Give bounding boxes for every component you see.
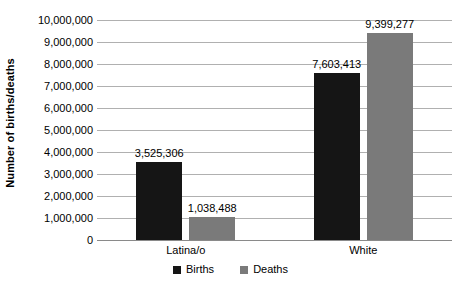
legend-label: Births (186, 264, 214, 275)
bar-data-label: 3,525,306 (119, 147, 199, 159)
y-axis-tick-labels: 10,000,0009,000,0008,000,0007,000,0006,0… (0, 20, 93, 240)
y-tick-label: 8,000,000 (7, 59, 93, 70)
y-tick-label: 1,000,000 (7, 213, 93, 224)
bar-deaths-white[interactable] (367, 33, 413, 240)
bar-births-white[interactable] (314, 73, 360, 240)
y-tick-label: 2,000,000 (7, 191, 93, 202)
chart-legend: BirthsDeaths (0, 264, 461, 275)
x-axis-category-labels: Latina/oWhite (97, 243, 452, 259)
legend-item-births[interactable]: Births (173, 264, 214, 275)
legend-item-deaths[interactable]: Deaths (240, 264, 288, 275)
bar-chart: Number of births/deaths 10,000,0009,000,… (0, 0, 461, 288)
bar-data-label: 9,399,277 (350, 18, 430, 30)
plot-area: 3,525,3061,038,4887,603,4139,399,277 (97, 20, 452, 240)
legend-swatch-icon (240, 266, 248, 274)
y-tick-label: 10,000,000 (7, 15, 93, 26)
y-tick-label: 3,000,000 (7, 169, 93, 180)
category-label-white: White (303, 243, 423, 257)
y-tick-label: 9,000,000 (7, 37, 93, 48)
legend-label: Deaths (253, 264, 288, 275)
bar-data-label: 7,603,413 (297, 58, 377, 70)
bar-deaths-latina-o[interactable] (189, 217, 235, 240)
category-label-latina-o: Latina/o (126, 243, 246, 257)
axis-baseline (97, 240, 452, 241)
y-tick-label: 6,000,000 (7, 103, 93, 114)
y-tick-label: 4,000,000 (7, 147, 93, 158)
legend-swatch-icon (173, 266, 181, 274)
bar-data-label: 1,038,488 (172, 202, 252, 214)
y-tick-label: 0 (7, 235, 93, 246)
y-tick-label: 7,000,000 (7, 81, 93, 92)
y-tick-label: 5,000,000 (7, 125, 93, 136)
